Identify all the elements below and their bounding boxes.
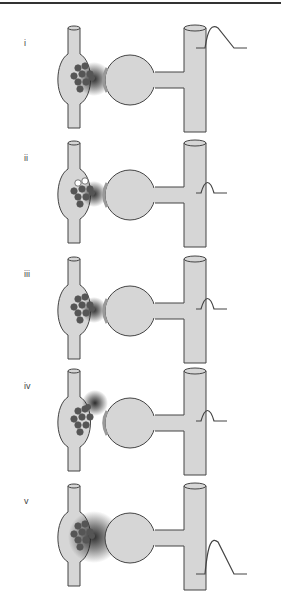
postsynaptic-spine — [104, 25, 206, 132]
postsynaptic-spine — [104, 368, 206, 475]
vesicle — [79, 414, 85, 420]
vesicle — [77, 544, 83, 550]
vesicle — [75, 296, 81, 302]
vesicle — [75, 65, 81, 71]
vesicle — [75, 537, 81, 543]
panel-iv: iv — [0, 367, 281, 483]
vesicle — [83, 194, 89, 200]
vesicle — [82, 178, 88, 184]
panel-v: v — [0, 482, 281, 598]
vesicle — [79, 302, 85, 308]
vesicle — [75, 523, 81, 529]
vesicle — [83, 79, 89, 85]
vesicle — [75, 422, 81, 428]
panel-iii: iii — [0, 255, 281, 371]
top-rule — [0, 2, 281, 4]
panel-ii: ii — [0, 139, 281, 255]
synapse-diagram — [0, 367, 281, 483]
vesicle — [83, 537, 89, 543]
synapse-diagram — [0, 139, 281, 255]
vesicle — [77, 201, 83, 207]
vesicle — [75, 408, 81, 414]
postsynaptic-spine — [104, 256, 206, 363]
vesicle — [87, 414, 93, 420]
vesicle — [82, 521, 88, 527]
vesicle — [79, 186, 85, 192]
vesicle — [82, 294, 88, 300]
vesicle — [71, 416, 77, 422]
panel-i: i — [0, 24, 281, 140]
vesicle — [79, 71, 85, 77]
docked-vesicle — [89, 190, 95, 196]
vesicle — [77, 317, 83, 323]
vesicle — [83, 310, 89, 316]
docked-vesicle — [89, 75, 95, 81]
vesicle — [71, 73, 77, 79]
synapse-diagram — [0, 24, 281, 140]
vesicle — [75, 194, 81, 200]
postsynaptic-spine — [104, 140, 206, 247]
vesicle — [82, 63, 88, 69]
vesicle — [83, 422, 89, 428]
vesicle — [71, 531, 77, 537]
vesicle — [71, 188, 77, 194]
vesicle — [75, 180, 81, 186]
vesicle — [79, 529, 85, 535]
docked-vesicle — [89, 533, 95, 539]
docked-vesicle — [85, 404, 91, 410]
vesicle — [71, 304, 77, 310]
docked-vesicle — [89, 306, 95, 312]
vesicle — [77, 86, 83, 92]
vesicle — [77, 429, 83, 435]
synapse-diagram — [0, 482, 281, 598]
synapse-diagram — [0, 255, 281, 371]
postsynaptic-spine — [105, 483, 206, 590]
vesicle — [75, 310, 81, 316]
vesicle — [75, 79, 81, 85]
